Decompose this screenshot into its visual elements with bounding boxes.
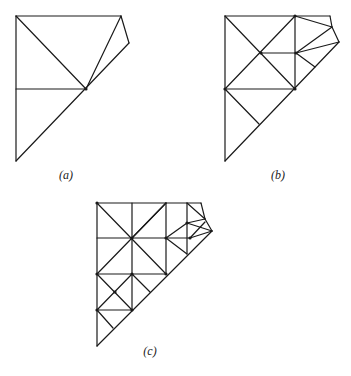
mesh-node xyxy=(84,87,87,90)
mesh-b xyxy=(223,14,339,161)
mesh-edge xyxy=(296,27,332,53)
mesh-node xyxy=(293,14,296,17)
mesh-edge xyxy=(296,42,339,53)
mesh-edge xyxy=(16,43,129,161)
mesh-edge xyxy=(132,274,150,292)
panel-label-b-text: (b) xyxy=(271,168,285,182)
mesh-node xyxy=(113,290,116,293)
mesh-figure xyxy=(0,0,351,376)
mesh-edge xyxy=(187,219,205,223)
mesh-node xyxy=(130,308,133,311)
panel-label-a: (a) xyxy=(59,168,73,183)
mesh-node xyxy=(293,87,296,90)
mesh-edge xyxy=(86,16,121,89)
mesh-edge xyxy=(16,16,86,89)
mesh-a xyxy=(16,16,129,161)
mesh-edge xyxy=(132,203,166,238)
mesh-edge xyxy=(332,27,339,42)
panel-label-a-text: (a) xyxy=(59,168,73,182)
mesh-node xyxy=(130,236,133,239)
mesh-edge xyxy=(187,203,205,219)
mesh-node xyxy=(95,272,98,275)
mesh-node xyxy=(185,221,188,224)
mesh-edge xyxy=(295,16,332,27)
panel-label-c: (c) xyxy=(143,344,156,359)
mesh-edge xyxy=(225,89,259,124)
mesh-node xyxy=(95,201,98,204)
mesh-edge xyxy=(97,231,212,346)
mesh-node xyxy=(188,236,191,239)
mesh-edge xyxy=(296,53,315,67)
mesh-edge xyxy=(166,238,187,254)
mesh-node xyxy=(95,308,98,311)
mesh-node xyxy=(130,272,133,275)
mesh-node xyxy=(294,51,297,54)
mesh-edge xyxy=(97,310,113,328)
mesh-c xyxy=(95,201,212,346)
panel-label-c-text: (c) xyxy=(143,344,156,358)
mesh-edge xyxy=(121,16,129,43)
mesh-edge xyxy=(166,223,187,238)
mesh-node xyxy=(164,272,167,275)
panel-label-b: (b) xyxy=(271,168,285,183)
mesh-node xyxy=(164,236,167,239)
mesh-node xyxy=(259,51,262,54)
mesh-edge xyxy=(225,42,339,161)
mesh-edge xyxy=(330,16,332,27)
mesh-node xyxy=(223,87,226,90)
